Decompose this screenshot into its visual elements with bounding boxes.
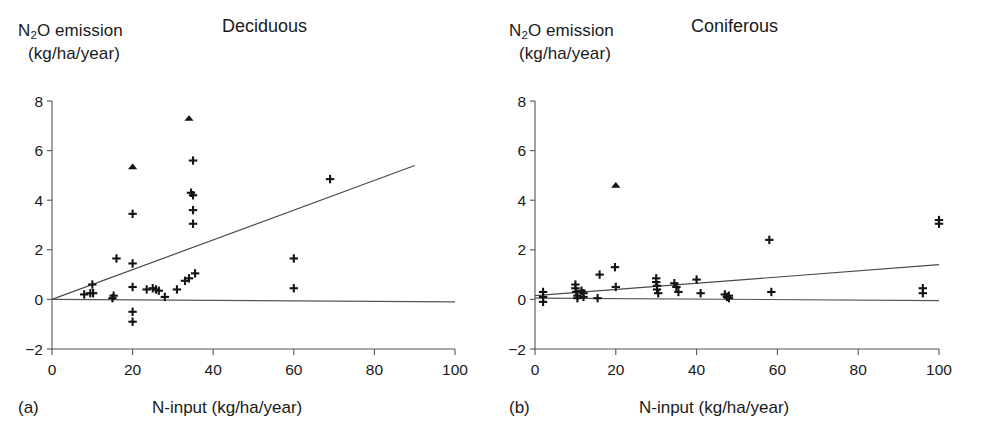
x-tick-label: 40 <box>205 361 223 378</box>
plot-area-a: −202468020406080100 <box>0 0 491 434</box>
data-point-plus <box>696 289 704 297</box>
data-point-triangle <box>184 115 193 121</box>
data-point-plus <box>593 294 601 302</box>
data-point-plus <box>112 254 120 262</box>
data-point-plus <box>919 289 927 297</box>
data-point-plus <box>767 288 775 296</box>
data-point-plus <box>80 290 88 298</box>
x-axis-label-a: N-input (kg/ha/year) <box>152 398 302 418</box>
data-point-plus <box>611 263 619 271</box>
x-tick-label: 40 <box>688 361 706 378</box>
data-point-plus <box>189 220 197 228</box>
plot-area-b: −202468020406080100 <box>491 0 983 434</box>
data-point-plus <box>143 285 151 293</box>
x-axis-label-b: N-input (kg/ha/year) <box>639 398 789 418</box>
x-tick-label: 20 <box>124 361 142 378</box>
data-point-triangle <box>611 182 620 188</box>
x-tick-label: 100 <box>926 361 952 378</box>
x-tick-label: 100 <box>442 361 468 378</box>
data-point-plus <box>128 308 136 316</box>
y-tick-label: 2 <box>34 241 43 258</box>
data-point-plus <box>173 285 181 293</box>
y-tick-label: 8 <box>517 93 526 110</box>
x-tick-label: 80 <box>850 361 868 378</box>
y-tick-label: 6 <box>34 142 43 159</box>
y-tick-label: 0 <box>517 291 526 308</box>
regression-line <box>52 165 415 299</box>
x-tick-label: 0 <box>48 361 57 378</box>
y-tick-label: 8 <box>34 93 43 110</box>
x-tick-label: 60 <box>285 361 303 378</box>
data-point-plus <box>326 175 334 183</box>
panel-letter-b: (b) <box>509 398 530 418</box>
y-tick-label: 4 <box>34 192 43 209</box>
data-point-plus <box>128 318 136 326</box>
data-point-plus <box>88 280 96 288</box>
data-point-plus <box>189 156 197 164</box>
y-tick-label: 4 <box>517 192 526 209</box>
data-point-triangle <box>128 163 137 169</box>
y-tick-label: 0 <box>34 291 43 308</box>
regression-line <box>535 265 939 296</box>
y-tick-label: 6 <box>517 142 526 159</box>
y-tick-label: 2 <box>517 241 526 258</box>
data-point-plus <box>189 206 197 214</box>
axis-frame <box>535 101 939 349</box>
panel-letter-a: (a) <box>18 398 39 418</box>
data-point-plus <box>595 270 603 278</box>
data-point-plus <box>128 210 136 218</box>
panel-coniferous: N2O emission (kg/ha/year) Coniferous −20… <box>491 0 983 434</box>
data-point-plus <box>539 298 547 306</box>
data-point-plus <box>128 259 136 267</box>
x-tick-label: 0 <box>531 361 540 378</box>
x-tick-label: 20 <box>607 361 625 378</box>
panel-deciduous: N2O emission (kg/ha/year) Deciduous −202… <box>0 0 491 434</box>
y-tick-label: −2 <box>25 341 43 358</box>
data-point-plus <box>765 236 773 244</box>
x-tick-label: 60 <box>769 361 787 378</box>
data-point-plus <box>191 269 199 277</box>
data-point-plus <box>128 283 136 291</box>
data-point-plus <box>290 254 298 262</box>
data-point-plus <box>290 284 298 292</box>
x-tick-label: 80 <box>366 361 384 378</box>
y-tick-label: −2 <box>508 341 526 358</box>
figure-scatter-panels: N2O emission (kg/ha/year) Deciduous −202… <box>0 0 983 434</box>
